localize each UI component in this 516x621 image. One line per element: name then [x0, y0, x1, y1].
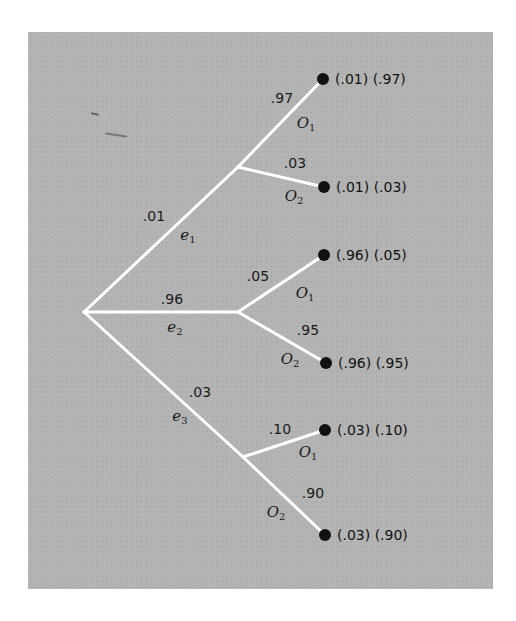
leaf-e1-o2-result: (.01) (.03) [336, 180, 407, 194]
branch-e1-o2-label: O2 [285, 189, 304, 206]
leaf-e2-o1-result: (.96) (.05) [336, 248, 407, 262]
branch-e2-o1-label: O1 [296, 286, 315, 303]
tree-branches [84, 79, 326, 535]
leaf-node-dot-icon [319, 529, 331, 541]
leaf-e3-o1-result: (.03) (.10) [337, 423, 408, 437]
leaf-node-dot-icon [319, 424, 331, 436]
branch-e3-o1-label: O1 [299, 445, 318, 462]
branch-e3-o2-label: O2 [267, 505, 286, 522]
leaf-node-dot-icon [317, 73, 329, 85]
branch-e3-o2-probability: .90 [302, 486, 324, 500]
branch-e3 [84, 312, 243, 457]
branch-e3-o1-probability: .10 [269, 422, 291, 436]
branch-e1-o2-probability: .03 [284, 156, 306, 170]
branch-e1-o2 [238, 167, 324, 187]
branch-e2-o1-probability: .05 [247, 269, 269, 283]
leaf-node-dot-icon [318, 181, 330, 193]
leaf-e3-o2-result: (.03) (.90) [337, 528, 408, 542]
branch-e3-label: e3 [172, 409, 187, 426]
branch-e1-label: e1 [180, 228, 195, 245]
branch-e1-o1-label: O1 [297, 116, 316, 133]
leaf-e1-o1-result: (.01) (.97) [335, 72, 406, 86]
branch-e3-probability: .03 [189, 385, 211, 399]
branch-e1-probability: .01 [143, 209, 165, 223]
branch-e1-o1-probability: .97 [271, 91, 293, 105]
leaf-e2-o2-result: (.96) (.95) [338, 356, 409, 370]
tree-leaf-dots [317, 73, 332, 541]
leaf-node-dot-icon [320, 357, 332, 369]
branch-e2-o2-probability: .95 [297, 323, 319, 337]
leaf-node-dot-icon [318, 249, 330, 261]
probability-tree [0, 0, 516, 621]
branch-e2-o2-label: O2 [281, 352, 300, 369]
branch-e2-label: e2 [167, 320, 182, 337]
branch-e2-probability: .96 [161, 292, 183, 306]
